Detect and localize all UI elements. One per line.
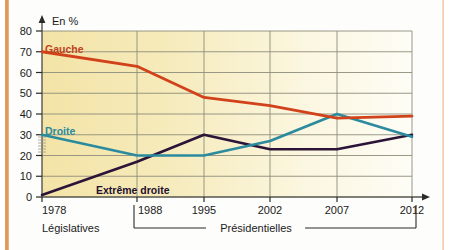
y-tick-label-60: 60 (20, 67, 32, 79)
series-label-droite: Droite (45, 125, 75, 137)
period-label-presidentielles: Présidentielles (220, 222, 292, 234)
x-tick-label-1978: 1978 (42, 204, 66, 216)
y-tick-label-30: 30 (20, 129, 32, 141)
line-chart: 80 70 60 50 40 30 20 10 0 En % Gauche Dr… (0, 0, 452, 250)
y-tick-label-10: 10 (20, 170, 32, 182)
x-tick-label-2012: 2012 (400, 204, 424, 216)
x-axis-ticks (42, 197, 412, 202)
x-tick-label-2007: 2007 (325, 204, 349, 216)
y-tick-label-80: 80 (20, 25, 32, 37)
x-tick-label-2002: 2002 (258, 204, 282, 216)
series-label-gauche: Gauche (45, 43, 84, 55)
y-tick-label-40: 40 (20, 108, 32, 120)
y-tick-label-0: 0 (26, 191, 32, 203)
y-axis-ticks (36, 31, 42, 197)
period-label-legislatives: Législatives (42, 222, 100, 234)
y-tick-label-20: 20 (20, 150, 32, 162)
y-axis-title: En % (52, 15, 79, 27)
y-tick-label-70: 70 (20, 46, 32, 58)
series-label-extreme-droite: Extrême droite (96, 184, 170, 196)
x-tick-label-1995: 1995 (192, 204, 216, 216)
x-tick-label-1988: 1988 (138, 204, 162, 216)
y-tick-label-50: 50 (20, 87, 32, 99)
